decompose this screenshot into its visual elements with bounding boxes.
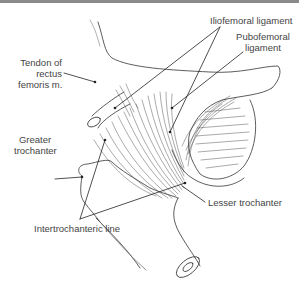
label-line: ligament xyxy=(232,42,294,53)
label-line: femoris m. xyxy=(18,79,62,90)
label-line: rectus xyxy=(18,68,62,79)
label-line: Pubofemoral xyxy=(232,31,294,42)
label-line: Tendon of xyxy=(18,57,62,68)
label-pubofemoral-ligament: Pubofemoral ligament xyxy=(232,31,294,53)
anatomy-figure: Tendon of rectus femoris m. Iliofemoral … xyxy=(0,0,299,281)
label-lesser-trochanter: Lesser trochanter xyxy=(208,197,282,208)
label-tendon-rectus-femoris: Tendon of rectus femoris m. xyxy=(18,57,62,90)
label-iliofemoral-ligament: Iliofemoral ligament xyxy=(210,15,292,26)
label-intertrochanteric-line: Intertrochanteric line xyxy=(34,223,120,234)
label-line: trochanter xyxy=(14,145,56,156)
label-greater-trochanter: Greater trochanter xyxy=(14,134,56,156)
label-line: Greater xyxy=(14,134,56,145)
